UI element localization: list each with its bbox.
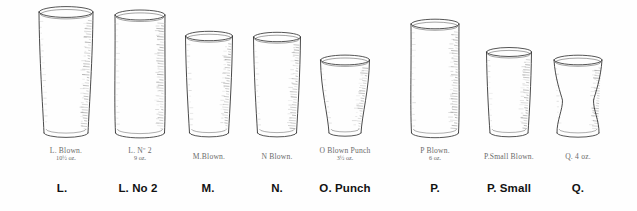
hand-label-line2: 6 oz. <box>408 155 462 162</box>
glass-drawing-n <box>248 30 306 143</box>
glass-drawing-l <box>33 5 99 143</box>
glass-drawing-l-no-2 <box>109 8 171 143</box>
glass-drawing-p-small <box>481 45 537 143</box>
glass-drawing-o <box>315 53 375 143</box>
glass-caption-q: Q. <box>518 182 637 194</box>
hand-label-line2: 10½ oz. <box>36 155 96 162</box>
hand-label-line1: M.Blown. <box>183 153 235 161</box>
glass-hand-label: N Blown. <box>251 153 303 161</box>
glass-figure-n: N Blown. <box>251 26 303 165</box>
glass-figure-l: L. Blown.10½ oz. <box>36 1 96 165</box>
glass-drawing-q <box>548 53 608 143</box>
glass-figure-o: O Blown Punch3½ oz. <box>318 49 372 165</box>
glass-figure-p: P Blown.6 oz. <box>408 13 462 165</box>
glass-drawing-m <box>180 29 238 143</box>
glass-hand-label: P.Small Blown. <box>484 153 534 161</box>
glass-drawing-p <box>405 17 465 143</box>
hand-label-line2: 9 oz. <box>112 155 168 162</box>
glass-illustration-row: L. Blown.10½ oz. L. Nº 29 oz. M.Blown. <box>0 0 637 165</box>
glass-hand-label: O Blown Punch3½ oz. <box>318 147 372 161</box>
glass-caption-row: L.L. No 2M.N.O. PunchP.P. SmallQ. <box>0 176 637 211</box>
glass-hand-label: Q. 4 oz. <box>551 153 605 161</box>
hand-label-line1: P.Small Blown. <box>484 153 534 161</box>
glassware-plate: L. Blown.10½ oz. L. Nº 29 oz. M.Blown. <box>0 0 637 211</box>
glass-figure-l-no-2: L. Nº 29 oz. <box>112 4 168 165</box>
glass-hand-label: P Blown.6 oz. <box>408 147 462 161</box>
hand-label-line1: N Blown. <box>251 153 303 161</box>
hand-label-line1: Q. 4 oz. <box>551 153 605 161</box>
glass-figure-q: Q. 4 oz. <box>551 49 605 165</box>
glass-figure-p-small: P.Small Blown. <box>484 41 534 165</box>
glass-figure-m: M.Blown. <box>183 25 235 165</box>
glass-hand-label: L. Nº 29 oz. <box>112 147 168 161</box>
hand-label-line2: 3½ oz. <box>318 155 372 162</box>
glass-hand-label: L. Blown.10½ oz. <box>36 147 96 161</box>
glass-hand-label: M.Blown. <box>183 153 235 161</box>
